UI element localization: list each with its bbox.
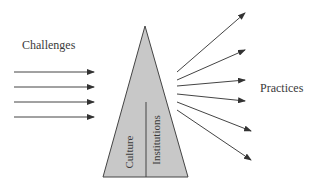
- output-arrows: [177, 13, 251, 160]
- challenges-label: Challenges: [22, 38, 76, 52]
- output-arrow: [177, 110, 251, 160]
- output-arrow: [177, 13, 245, 72]
- challenges-practices-diagram: Challenges Culture Institutions Practice…: [0, 0, 311, 188]
- output-arrow: [177, 80, 245, 86]
- output-arrow: [177, 50, 245, 80]
- input-arrows: [14, 72, 94, 117]
- institutions-label: Institutions: [150, 115, 162, 165]
- output-arrow: [177, 102, 251, 131]
- output-arrow: [177, 94, 245, 101]
- culture-label: Culture: [123, 135, 135, 168]
- practices-label: Practices: [260, 81, 304, 95]
